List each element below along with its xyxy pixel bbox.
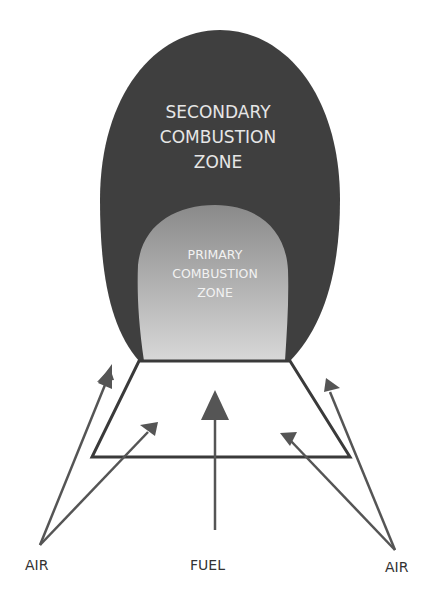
svg-text:ZONE: ZONE (194, 152, 243, 172)
primary-combustion-zone (138, 205, 289, 361)
svg-text:COMBUSTION: COMBUSTION (160, 127, 276, 147)
svg-text:SECONDARY: SECONDARY (165, 102, 271, 122)
combustion-zone-diagram: SECONDARY COMBUSTION ZONE PRIMARY COMBUS… (0, 0, 434, 599)
secondary-combustion-zone (100, 30, 340, 361)
svg-text:PRIMARY: PRIMARY (188, 247, 243, 262)
air-arrow-right-outer (330, 392, 395, 550)
fuel-label: FUEL (190, 557, 225, 573)
air-label-left: AIR (25, 557, 49, 573)
air-arrow-left-inner (40, 432, 148, 545)
air-label-right: AIR (385, 559, 409, 575)
air-arrow-left-outer (40, 380, 107, 545)
svg-text:COMBUSTION: COMBUSTION (172, 266, 258, 281)
svg-text:ZONE: ZONE (197, 285, 233, 300)
